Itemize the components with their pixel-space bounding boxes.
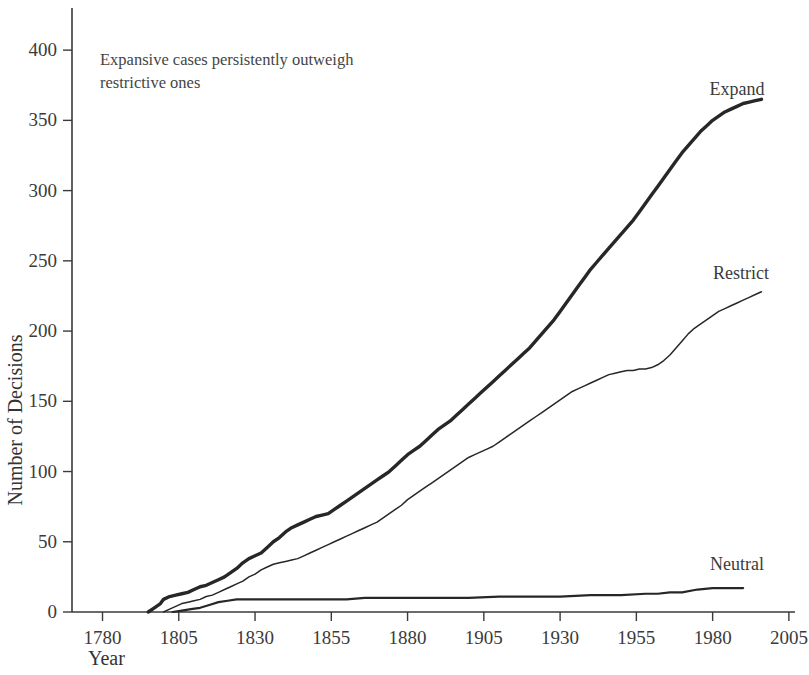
y-tick-label: 250 — [29, 250, 58, 271]
x-axis-title: Year — [88, 647, 125, 669]
y-tick-label: 300 — [29, 180, 58, 201]
x-tick-label: 1930 — [541, 627, 579, 648]
x-tick-label: 2005 — [770, 627, 808, 648]
x-tick-label: 1830 — [236, 627, 274, 648]
annotation-line-1: Expansive cases persistently outweigh — [100, 50, 354, 69]
x-tick-label: 1980 — [694, 627, 732, 648]
y-axis-ticks — [63, 50, 72, 612]
series-line-neutral — [173, 588, 743, 612]
y-tick-label: 200 — [29, 320, 58, 341]
annotation-line-2: restrictive ones — [100, 73, 200, 92]
x-tick-label: 1955 — [617, 627, 655, 648]
y-tick-label: 50 — [38, 531, 57, 552]
series-label-restrict: Restrict — [713, 263, 769, 283]
y-axis-tick-labels: 050100150200250300350400 — [29, 39, 58, 622]
chart-figure: 050100150200250300350400 178018051830185… — [0, 0, 809, 675]
x-tick-label: 1855 — [312, 627, 350, 648]
x-tick-label: 1780 — [84, 627, 122, 648]
series-label-neutral: Neutral — [710, 554, 764, 574]
y-tick-label: 0 — [48, 601, 58, 622]
line-chart-svg: 050100150200250300350400 178018051830185… — [0, 0, 809, 675]
x-tick-label: 1905 — [465, 627, 503, 648]
x-axis-ticks — [103, 612, 789, 621]
y-axis-title: Number of Decisions — [4, 334, 26, 505]
series-line-restrict — [164, 292, 762, 612]
series-label-expand: Expand — [710, 79, 765, 99]
y-tick-label: 100 — [29, 461, 58, 482]
x-axis-tick-labels: 1780180518301855188019051930195519802005 — [84, 627, 808, 648]
y-tick-label: 350 — [29, 109, 58, 130]
x-tick-label: 1880 — [389, 627, 427, 648]
y-tick-label: 400 — [29, 39, 58, 60]
x-tick-label: 1805 — [160, 627, 198, 648]
y-tick-label: 150 — [29, 390, 58, 411]
